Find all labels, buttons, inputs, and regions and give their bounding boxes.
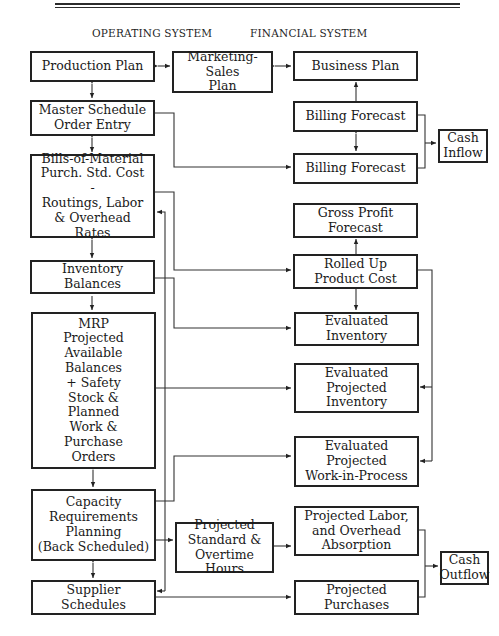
- gross-profit-forecast-box: Gross Profit Forecast: [293, 203, 418, 238]
- cash-inflow-box: Cash Inflow: [438, 129, 488, 163]
- mrp-box: MRP Projected Available Balances + Safet…: [31, 312, 156, 469]
- arrow-capacity-evalwip: [155, 456, 291, 501]
- bus-rolledup-right: [418, 270, 432, 461]
- capacity-planning-box: Capacity Requirements Planning (Back Sch…: [31, 489, 156, 561]
- projected-hours-box: Projected Standard & Overtime Hours: [175, 522, 274, 573]
- master-schedule-box: Master Schedule Order Entry: [30, 100, 155, 136]
- supplier-schedules-box: Supplier Schedules: [31, 580, 156, 615]
- cash-outflow-box: Cash Outflow: [440, 551, 489, 585]
- arrow-bills-rolledup: [155, 192, 291, 270]
- bracket-billing-cash-inflow: [418, 115, 425, 168]
- marketing-sales-plan-box: Marketing-Sales Plan: [172, 51, 273, 93]
- evaluated-projected-wip-box: Evaluated Projected Work-in-Process: [294, 436, 419, 487]
- arrow-master-billing2: [155, 113, 291, 167]
- business-plan-box: Business Plan: [293, 51, 418, 81]
- bills-of-material-box: Bills-of-Material Purch. Std. Cost - Rou…: [30, 154, 155, 238]
- bracket-cash-outflow: [418, 530, 425, 597]
- feedback-to-bills: [157, 212, 165, 591]
- billing-forecast-1-box: Billing Forecast: [293, 101, 418, 132]
- production-plan-box: Production Plan: [30, 51, 155, 82]
- projected-labor-absorption-box: Projected Labor, and Overhead Absorption: [294, 506, 419, 556]
- projected-purchases-box: Projected Purchases: [294, 580, 419, 615]
- evaluated-projected-inventory-box: Evaluated Projected Inventory: [294, 363, 419, 413]
- evaluated-inventory-box: Evaluated Inventory: [294, 312, 419, 346]
- rolled-up-cost-box: Rolled Up Product Cost: [293, 254, 418, 289]
- billing-forecast-2-box: Billing Forecast: [293, 153, 418, 184]
- inventory-balances-box: Inventory Balances: [30, 260, 155, 294]
- arrow-invbal-evalinv: [155, 278, 291, 328]
